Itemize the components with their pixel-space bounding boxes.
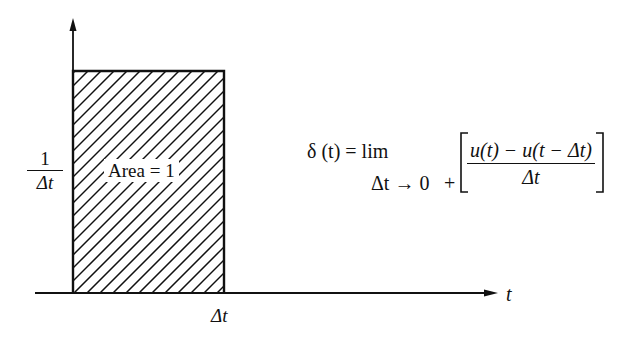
difference-quotient: u(t) − u(t − Δt) Δt (467, 140, 595, 187)
formula-plus: + (444, 173, 455, 193)
limit-subscript: Δt → 0 (371, 173, 429, 193)
pulse-outline (73, 71, 224, 293)
area-label: Area = 1 (104, 159, 179, 182)
x-axis-arrow-icon (484, 290, 498, 297)
quotient-numerator: u(t) − u(t − Δt) (467, 140, 595, 163)
y-label-numerator: 1 (27, 149, 63, 170)
y-label-denominator: Δt (27, 171, 63, 192)
x-axis-label: t (506, 284, 512, 304)
x-tick-label: Δt (211, 306, 227, 325)
y-axis-label: 1 Δt (27, 149, 63, 192)
impulse-formula: δ (t) = lim Δt → 0 + u(t) − u(t − Δt) Δt (307, 130, 627, 210)
y-axis-arrow-icon (70, 18, 77, 31)
formula-lhs: δ (t) = lim (307, 141, 388, 161)
quotient-denominator: Δt (467, 164, 595, 187)
